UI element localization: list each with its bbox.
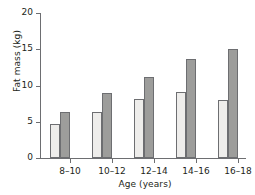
bar-8-10-dark: [60, 112, 70, 158]
bar-16-18-light: [218, 100, 228, 158]
x-tick-2: [154, 159, 155, 163]
y-tick-label-10: 10: [22, 80, 33, 90]
y-tick-10: 10: [36, 86, 40, 87]
x-axis-title: Age (years): [40, 179, 250, 189]
y-tick-label-20: 20: [22, 7, 33, 17]
y-axis-line: [40, 13, 41, 159]
plot-area: 0 5 10 15 20 8–10 10–12 12–14 14–16 16–1…: [40, 13, 246, 158]
y-tick-label-5: 5: [27, 116, 33, 126]
bar-12-14-dark: [144, 77, 154, 158]
bar-10-12-dark: [102, 93, 112, 158]
y-tick-label-0: 0: [27, 152, 33, 162]
bar-8-10-light: [50, 124, 60, 158]
y-tick-label-15: 15: [22, 43, 33, 53]
x-tick-label-4: 16–18: [208, 166, 255, 176]
chart-figure: Fat mass (kg) 0 5 10 15 20 8–10 10–12 12…: [0, 0, 255, 195]
x-tick-4: [238, 159, 239, 163]
x-tick-1: [112, 159, 113, 163]
y-tick-15: 15: [36, 49, 40, 50]
y-tick-0: 0: [36, 158, 40, 159]
bar-12-14-light: [134, 99, 144, 158]
y-tick-20: 20: [36, 13, 40, 14]
x-tick-0: [70, 159, 71, 163]
bar-14-16-dark: [186, 59, 196, 158]
y-axis-title: Fat mass (kg): [12, 6, 22, 116]
y-tick-5: 5: [36, 122, 40, 123]
bar-16-18-dark: [228, 49, 238, 158]
bar-14-16-light: [176, 92, 186, 158]
x-tick-3: [196, 159, 197, 163]
bar-10-12-light: [92, 112, 102, 158]
